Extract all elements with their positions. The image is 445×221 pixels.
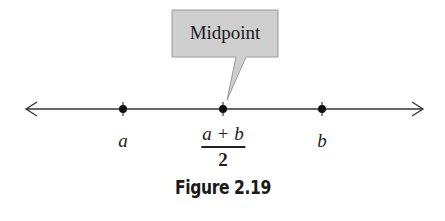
midpoint-figure: Midpoint a a + b 2 b Figure 2.19 — [0, 0, 445, 221]
point-a — [119, 102, 127, 116]
fraction-numerator: a + b — [200, 124, 245, 144]
figure-caption: Figure 2.19 — [175, 176, 271, 198]
fraction-bar — [201, 146, 245, 148]
point-a-label: a — [118, 130, 128, 152]
midpoint-fraction-label: a + b 2 — [200, 124, 245, 170]
point-b — [318, 102, 326, 116]
point-b-label: b — [317, 130, 327, 152]
fraction-denominator: 2 — [218, 150, 228, 170]
point-midpoint — [219, 102, 227, 116]
midpoint-callout-label: Midpoint — [172, 10, 278, 56]
